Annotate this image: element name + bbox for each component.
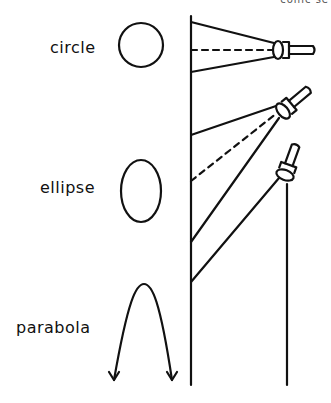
flashlight-icon [275,141,305,182]
ellipse-shape [121,160,161,222]
diagram-drawing [0,0,331,403]
parabola-shape [114,284,172,380]
conic-sections-diagram: conic se circle ellipse parabola [0,0,331,403]
circle-shape [119,23,163,67]
flashlight-icon [273,82,315,121]
flashlight-icon [273,41,315,59]
